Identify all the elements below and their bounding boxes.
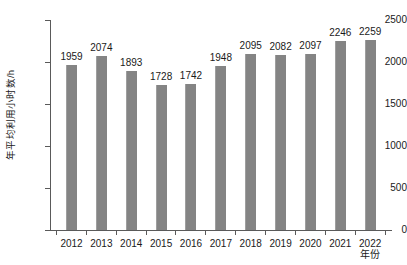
- bar-value-label: 2095: [235, 41, 267, 51]
- bar: [96, 56, 107, 230]
- bar-value-label: 1948: [205, 53, 237, 63]
- bar-value-label: 1959: [56, 52, 88, 62]
- y-tick-mark: [45, 20, 50, 21]
- bar-value-label: 2097: [294, 41, 326, 51]
- y-tick-label: 2500: [365, 15, 407, 25]
- x-tick-label: 2016: [175, 238, 207, 249]
- bar: [245, 54, 256, 230]
- bar: [185, 84, 196, 230]
- bar: [365, 40, 376, 230]
- bar-value-label: 1728: [145, 72, 177, 82]
- bar-chart: 年平均利用小时数/h 05001000150020002500 19592074…: [0, 0, 407, 265]
- x-tick-mark: [235, 231, 236, 235]
- x-tick-label: 2012: [56, 238, 88, 249]
- x-tick-mark: [385, 231, 386, 235]
- x-tick-label: 2014: [115, 238, 147, 249]
- x-axis-title: 年份: [354, 249, 386, 260]
- bar-value-label: 2246: [324, 28, 356, 38]
- x-tick-label: 2018: [235, 238, 267, 249]
- x-tick-label: 2021: [324, 238, 356, 249]
- bar: [126, 71, 137, 230]
- x-tick-mark: [205, 231, 206, 235]
- bar: [66, 65, 77, 230]
- x-tick-label: 2022: [354, 238, 386, 249]
- bar: [275, 55, 286, 230]
- x-tick-mark: [146, 231, 147, 235]
- y-axis-line: [50, 20, 51, 231]
- x-tick-mark: [265, 231, 266, 235]
- bar-value-label: 1893: [115, 58, 147, 68]
- bar-value-label: 2074: [85, 43, 117, 53]
- x-tick-mark: [86, 231, 87, 235]
- y-tick-mark: [45, 188, 50, 189]
- y-tick-mark: [45, 62, 50, 63]
- x-tick-mark: [175, 231, 176, 235]
- x-tick-label: 2015: [145, 238, 177, 249]
- x-tick-mark: [295, 231, 296, 235]
- x-tick-label: 2019: [265, 238, 297, 249]
- bar-value-label: 2082: [265, 42, 297, 52]
- bar: [305, 54, 316, 230]
- bar: [215, 66, 226, 230]
- x-tick-label: 2020: [294, 238, 326, 249]
- x-axis-line: [50, 230, 392, 231]
- x-tick-mark: [116, 231, 117, 235]
- x-tick-label: 2017: [205, 238, 237, 249]
- x-tick-mark: [325, 231, 326, 235]
- bar: [156, 85, 167, 230]
- x-tick-label: 2013: [85, 238, 117, 249]
- bar-value-label: 1742: [175, 71, 207, 81]
- plot-area: 05001000150020002500 1959207418931728174…: [0, 0, 407, 265]
- y-tick-mark: [45, 230, 50, 231]
- y-tick-mark: [45, 146, 50, 147]
- bar: [335, 41, 346, 230]
- x-tick-mark: [355, 231, 356, 235]
- bar-value-label: 2259: [354, 27, 386, 37]
- y-tick-mark: [45, 104, 50, 105]
- x-tick-mark: [56, 231, 57, 235]
